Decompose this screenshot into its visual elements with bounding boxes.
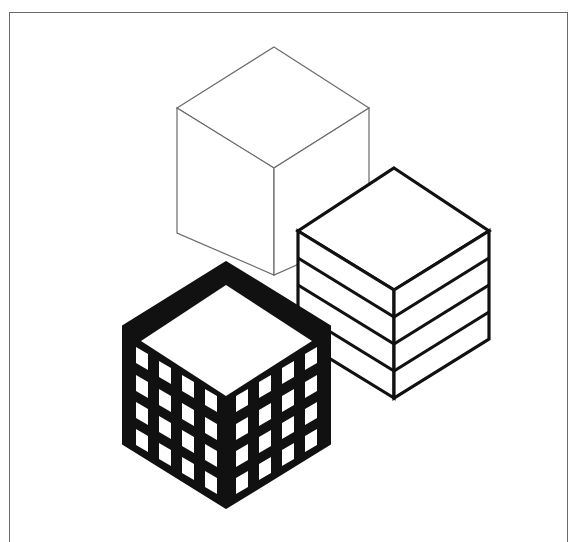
isometric-cubes-illustration bbox=[0, 0, 575, 531]
